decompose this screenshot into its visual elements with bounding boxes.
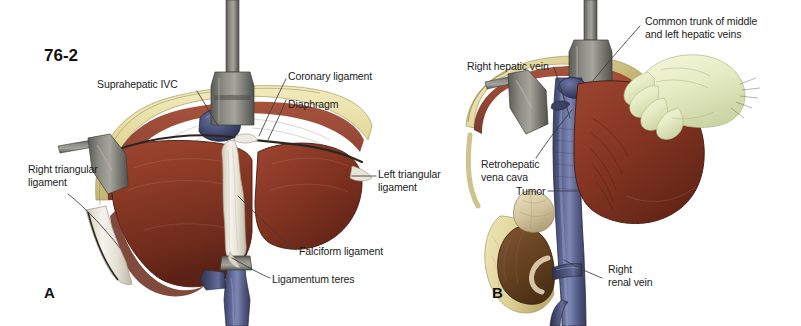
retractor-superior [211,0,254,125]
label-right-renal-vein-line2: renal vein [608,276,653,289]
left-triangular-ligament [350,166,372,181]
figure-number: 76-2 [44,50,78,63]
label-right-renal-vein-line1: Right [608,263,632,276]
label-tumor: Tumor [516,185,545,198]
retractor-lateral-b [485,70,548,134]
right-kidney [498,227,555,305]
liver-left-lobe [255,143,362,249]
label-left-triangular-ligament-line2: ligament [378,181,417,194]
coronary-ligament-fold [234,134,258,143]
label-suprahepatic-ivc: Suprahepatic IVC [97,78,178,91]
label-left-triangular-ligament-line1: Left triangular [378,168,441,181]
surgeon-gloved-hand [624,55,760,140]
medical-illustration-artwork [0,0,801,326]
panel-letter-b: B [492,287,503,300]
label-falciform-ligament: Falciform ligament [299,245,383,258]
label-ligamentum-teres: Ligamentum teres [272,273,354,286]
label-retrohepatic-vena-cava-line2: vena cava [481,171,528,184]
label-right-triangular-ligament-line2: ligament [28,176,67,189]
figure-76-2: 76-2 Suprahepatic IVC Coronary ligament … [0,0,801,326]
ivc-tributary [200,270,226,290]
label-right-hepatic-vein: Right hepatic vein [467,60,549,73]
label-coronary-ligament: Coronary ligament [288,70,372,83]
label-diaphragm: Diaphragm [288,98,338,111]
label-common-trunk-line1: Common trunk of middle [645,15,757,28]
panel-letter-a: A [44,287,55,300]
label-common-trunk-line2: and left hepatic veins [645,28,741,41]
label-right-triangular-ligament-line1: Right triangular [28,163,98,176]
label-retrohepatic-vena-cava-line1: Retrohepatic [481,158,539,171]
fat-strip-b [468,135,478,206]
